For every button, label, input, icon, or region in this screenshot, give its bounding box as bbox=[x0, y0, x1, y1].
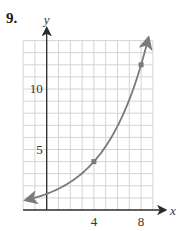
y-axis-label: y bbox=[42, 12, 50, 27]
x-tick-label: 4 bbox=[91, 214, 98, 229]
exponential-graph: xy48510 bbox=[0, 0, 181, 231]
x-tick-label: 8 bbox=[138, 214, 145, 229]
exponential-curve bbox=[27, 39, 149, 200]
data-point bbox=[91, 159, 96, 164]
y-tick-label: 10 bbox=[30, 81, 43, 96]
y-tick-label: 5 bbox=[36, 142, 43, 157]
x-axis-label: x bbox=[169, 203, 176, 218]
data-point bbox=[139, 62, 144, 67]
